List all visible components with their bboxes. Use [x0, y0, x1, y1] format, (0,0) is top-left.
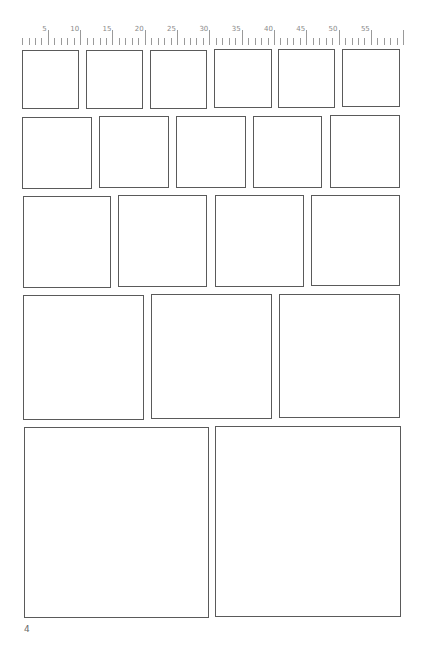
panel-frame-row-4-1 [23, 295, 144, 420]
ruler-major-tick [403, 30, 404, 45]
ruler-tick [171, 38, 172, 45]
ruler-tick [293, 38, 294, 45]
panel-frame-row-2-3 [176, 116, 246, 188]
ruler-label: 30 [199, 25, 209, 33]
ruler-label: 45 [296, 25, 306, 33]
ruler-major-tick [274, 30, 275, 45]
ruler-tick [87, 38, 88, 45]
ruler-tick [74, 38, 75, 45]
ruler-tick [390, 38, 391, 45]
panel-frame-row-1-3 [150, 50, 207, 109]
panel-frame-row-5-1 [24, 427, 209, 618]
ruler-tick [35, 38, 36, 45]
ruler-label: 15 [102, 25, 112, 33]
ruler-tick [158, 38, 159, 45]
ruler-tick [100, 38, 101, 45]
ruler-major-tick [371, 30, 372, 45]
ruler-tick [268, 38, 269, 45]
ruler-major-tick [306, 30, 307, 45]
ruler-label: 50 [329, 25, 339, 33]
ruler-label: 25 [167, 25, 177, 33]
ruler-tick [22, 38, 23, 45]
ruler-tick [384, 38, 385, 45]
panel-frame-row-1-6 [342, 49, 400, 107]
ruler-tick [164, 38, 165, 45]
panel-frame-row-2-4 [253, 116, 322, 188]
ruler-tick [364, 38, 365, 45]
ruler-tick [190, 38, 191, 45]
ruler-tick [287, 38, 288, 45]
panel-frame-row-1-4 [214, 49, 272, 108]
ruler-tick [93, 38, 94, 45]
ruler-tick [261, 38, 262, 45]
ruler-tick [319, 38, 320, 45]
panel-frame-row-2-2 [99, 116, 169, 188]
ruler-tick [54, 38, 55, 45]
panel-frame-row-3-2 [118, 195, 207, 287]
ruler-tick [235, 38, 236, 45]
ruler-tick [332, 38, 333, 45]
panel-frame-row-4-3 [279, 294, 400, 418]
panel-frame-row-3-4 [311, 195, 400, 286]
ruler-major-tick [145, 30, 146, 45]
ruler-tick [67, 38, 68, 45]
ruler-tick [280, 38, 281, 45]
panel-frame-row-2-5 [330, 115, 400, 188]
ruler-tick [358, 38, 359, 45]
ruler-tick [119, 38, 120, 45]
ruler-tick [138, 38, 139, 45]
panel-frame-row-5-2 [215, 426, 401, 617]
ruler-tick [151, 38, 152, 45]
ruler-tick [106, 38, 107, 45]
ruler-label: 5 [42, 25, 47, 33]
ruler-major-tick [48, 30, 49, 45]
ruler-tick [397, 38, 398, 45]
ruler-tick [248, 38, 249, 45]
ruler-tick [300, 38, 301, 45]
ruler-tick [222, 38, 223, 45]
ruler-tick [216, 38, 217, 45]
ruler-tick [313, 38, 314, 45]
ruler-tick [377, 38, 378, 45]
ruler-major-tick [209, 30, 210, 45]
ruler-tick [184, 38, 185, 45]
ruler-label: 20 [135, 25, 145, 33]
panel-frame-row-1-2 [86, 50, 143, 109]
ruler-major-tick [177, 30, 178, 45]
ruler-tick [61, 38, 62, 45]
ruler-tick [132, 38, 133, 45]
ruler-label: 35 [232, 25, 242, 33]
ruler-tick [203, 38, 204, 45]
ruler-major-tick [80, 30, 81, 45]
panel-frame-row-4-2 [151, 294, 272, 419]
ruler-label: 10 [70, 25, 80, 33]
ruler-major-tick [242, 30, 243, 45]
ruler-tick [345, 38, 346, 45]
ruler-tick [229, 38, 230, 45]
ruler-label: 55 [361, 25, 371, 33]
ruler-tick [255, 38, 256, 45]
panel-frame-row-1-1 [22, 50, 79, 109]
ruler-tick [326, 38, 327, 45]
ruler-label: 40 [264, 25, 274, 33]
panel-frame-row-3-3 [215, 195, 304, 287]
ruler-tick [125, 38, 126, 45]
ruler-tick [196, 38, 197, 45]
measurement-ruler: 510152025303540455055 [0, 0, 424, 48]
ruler-major-tick [112, 30, 113, 45]
panel-frame-row-3-1 [23, 196, 111, 288]
panel-frame-row-2-1 [22, 117, 92, 189]
ruler-tick [29, 38, 30, 45]
ruler-tick [41, 38, 42, 45]
ruler-major-tick [339, 30, 340, 45]
panel-frame-row-1-5 [278, 49, 335, 108]
page-number: 4 [24, 624, 30, 634]
ruler-tick [352, 38, 353, 45]
